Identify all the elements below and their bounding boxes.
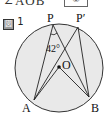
label-o: O xyxy=(62,58,71,72)
circle-geometry-diagram: P P′ A B O 42° xyxy=(0,0,110,114)
angle-label-42: 42° xyxy=(46,43,60,54)
center-point-o xyxy=(57,65,61,69)
label-p: P xyxy=(47,11,54,25)
label-a: A xyxy=(22,101,31,114)
label-p-prime: P′ xyxy=(76,11,86,25)
label-b: B xyxy=(91,101,99,114)
